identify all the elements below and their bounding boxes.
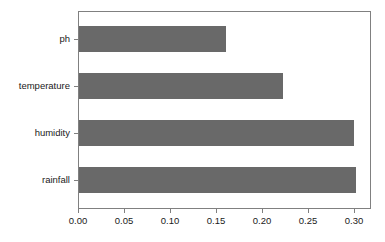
x-axis-label-5: 0.25: [288, 215, 328, 226]
x-axis-tick-mark-0: [78, 209, 79, 213]
x-axis-tick-mark-3: [216, 209, 217, 213]
bar-ph: [79, 26, 226, 52]
bar-temperature: [79, 73, 283, 99]
x-axis-tick-mark-1: [124, 209, 125, 213]
bar-humidity: [79, 120, 354, 146]
bars-layer: [79, 12, 371, 208]
x-axis-tick-mark-5: [308, 209, 309, 213]
y-axis-label-rainfall: rainfall: [0, 175, 70, 185]
y-axis-label-humidity: humidity: [0, 128, 70, 138]
x-axis-label-6: 0.30: [334, 215, 374, 226]
x-axis-label-3: 0.15: [196, 215, 236, 226]
x-axis-tick-mark-6: [354, 209, 355, 213]
x-axis-tick-mark-2: [170, 209, 171, 213]
y-axis-label-temperature: temperature: [0, 81, 70, 91]
x-axis-label-1: 0.05: [104, 215, 144, 226]
x-axis-tick-mark-4: [262, 209, 263, 213]
bar-chart-figure: ph temperature humidity rainfall 0.00 0.…: [0, 0, 385, 242]
y-axis-label-ph: ph: [0, 34, 70, 44]
x-axis-label-4: 0.20: [242, 215, 282, 226]
x-axis-label-2: 0.10: [150, 215, 190, 226]
bar-rainfall: [79, 167, 356, 193]
x-axis-label-0: 0.00: [58, 215, 98, 226]
